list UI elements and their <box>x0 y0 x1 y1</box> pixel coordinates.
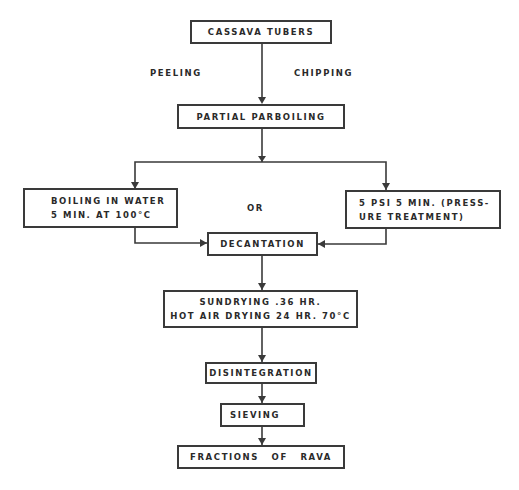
node-text-line-1: 5 Psi 5 Min. (Press- <box>359 196 490 210</box>
arrowhead <box>258 283 266 290</box>
arrowhead <box>200 239 207 247</box>
arrowhead <box>258 438 266 445</box>
node-fractions-of-rava: Fractions of Rava <box>177 445 345 469</box>
node-text-line-2: Hot Air Drying 24 Hr. 70°C <box>170 309 351 323</box>
node-text-line-1: Boiling in Water <box>51 194 165 208</box>
arrowhead <box>258 355 266 362</box>
node-partial-parboiling: Partial Parboiling <box>177 104 345 129</box>
arrowhead <box>382 183 390 190</box>
edge-boiling-decant <box>135 227 207 243</box>
node-text: Sieving <box>230 408 280 422</box>
node-text-line-2: ure Treatment) <box>359 210 465 224</box>
arrowhead <box>258 97 266 104</box>
node-text: Partial Parboiling <box>196 110 325 124</box>
edge-pressure-decant <box>318 228 386 244</box>
node-text: Decantation <box>220 237 305 251</box>
node-boiling-in-water: Boiling in Water 5 Min. at 100°C <box>23 188 178 228</box>
edge-split-branches <box>135 162 386 190</box>
node-cassava-tubers: Cassava Tubers <box>190 20 332 44</box>
node-text-line-1: Sundrying .36 Hr. <box>200 295 322 309</box>
node-decantation: Decantation <box>207 232 318 256</box>
node-pressure-treatment: 5 Psi 5 Min. (Press- ure Treatment) <box>345 190 501 229</box>
edge-label-chipping: Chipping <box>294 68 353 78</box>
label-or: OR <box>247 203 264 213</box>
node-disintegration: Disintegration <box>205 362 317 384</box>
arrowhead <box>318 240 325 248</box>
node-text-line-2: 5 Min. at 100°C <box>51 208 152 222</box>
node-drying: Sundrying .36 Hr. Hot Air Drying 24 Hr. … <box>163 290 358 328</box>
node-text: Cassava Tubers <box>208 25 314 39</box>
edge-label-peeling: Peeling <box>150 68 202 78</box>
arrowhead <box>258 396 266 403</box>
node-text: Fractions of Rava <box>190 450 332 464</box>
node-sieving: Sieving <box>220 403 305 427</box>
arrowhead <box>258 156 266 162</box>
node-text: Disintegration <box>209 366 312 380</box>
